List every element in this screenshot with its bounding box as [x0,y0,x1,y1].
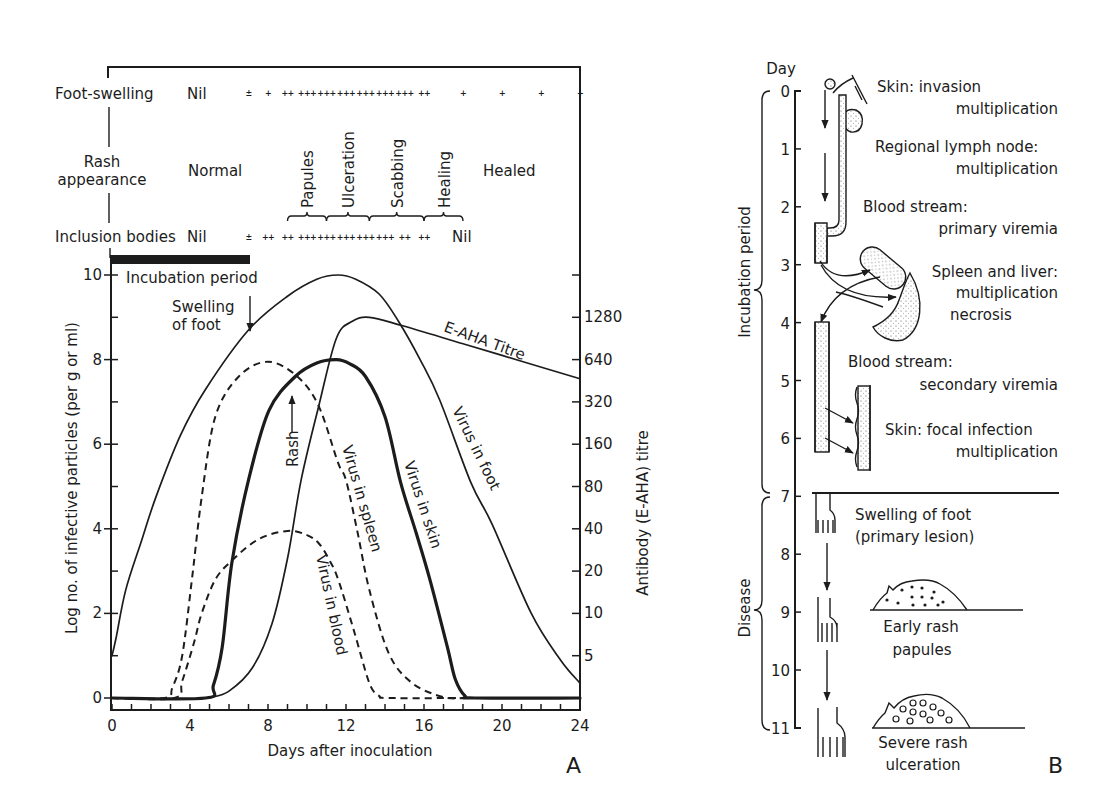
stage-spleen-liver-2: multiplication [956,284,1058,302]
y2-tick-label: 20 [584,562,603,580]
panel-b: Day 01234567891011 Incubation period Dis… [736,60,1063,778]
score-symbol: +++ [376,233,394,242]
rash-stages: PapulesUlcerationScabbingHealing [288,131,464,221]
x-axis-title: Days after inoculation [267,742,432,760]
y-tick-label: 4 [92,520,102,538]
rash-appearance-label-1: Rash [84,153,121,171]
stage-spleen-liver-3: necrosis [950,306,1012,324]
day-tick-label: 10 [771,662,790,680]
y2-tick-label: 10 [584,604,603,622]
score-symbol: + [538,89,544,98]
stage-early-rash-1: Early rash [883,618,958,636]
y2-tick-label: 5 [584,647,594,665]
foot-swelling-scores: ±+++++++++++++++++++++++++++ [245,89,583,98]
inclusion-bodies-nil-before: Nil [187,228,207,246]
rash-normal: Normal [188,162,242,180]
y2-tick-label: 160 [584,435,613,453]
stage-brace [288,212,327,221]
blood-vessel-stipple [815,223,827,263]
foot-icon [818,597,837,642]
severe-rash-drawing [872,694,1025,728]
stage-primary-viremia-2: primary viremia [938,220,1058,238]
score-symbol: +++ [356,233,374,242]
stage-severe-rash-2: ulceration [885,756,960,774]
score-symbol: +++ [356,89,374,98]
y2-tick-label: 640 [584,351,613,369]
foot-swelling-label: Foot-swelling [55,85,154,103]
score-symbol: ++ [262,233,274,242]
skin-invasion-drawing [815,75,867,263]
incubation-period-label: Incubation period [126,269,258,287]
score-symbol: +++ [298,89,316,98]
foot-icon [818,707,845,757]
rash-healed: Healed [483,162,536,180]
rash-stage-label: Papules [299,150,317,208]
spleen-curve-label: Virus in spleen [338,443,386,554]
score-symbol: +++ [395,89,413,98]
foot-swelling-nil: Nil [187,85,207,103]
score-symbol: + [460,89,466,98]
inoculum-stipple [825,79,835,89]
y-tick-label: 6 [92,435,102,453]
papule-mound-icon [873,580,967,610]
day-tick-label: 6 [780,430,790,448]
stage-secondary-viremia-1: Blood stream: [848,353,953,371]
panel-a-letter: A [566,753,581,778]
incubation-period-phase-label: Incubation period [736,206,754,338]
x-tick-label: 20 [492,717,511,735]
day-tick-label: 8 [780,546,790,564]
panel-b-letter: B [1048,753,1063,778]
y-tick-label: 8 [92,351,102,369]
figure: Foot-swelling Nil ±+++++++++++++++++++++… [0,0,1111,808]
incubation-period-bar [110,255,250,264]
foot-drawings [816,494,845,757]
stage-early-rash-2: papules [893,641,952,659]
score-symbol: + [265,89,271,98]
stage-severe-rash-1: Severe rash [878,734,967,752]
day-axis [795,91,801,728]
rash-stage-label: Healing [436,151,454,208]
rash-appearance-label-2: appearance [58,171,147,189]
day-tick-label: 11 [771,720,790,738]
score-symbol: ++ [418,89,430,98]
stage-foot-swelling-1: Swelling of foot [855,506,971,524]
arrow-to-bloodstream-icon [821,277,880,322]
blood-curve-label: Virus in blood [312,553,351,657]
day-axis-ticks: 01234567891011 [771,83,801,738]
x-tick-label: 4 [185,717,195,735]
curve-foot [112,275,580,683]
secondary-viremia-drawing [815,322,870,471]
stage-skin-invasion-2: multiplication [956,100,1058,118]
stage-primary-viremia-1: Blood stream: [863,198,968,216]
y2-tick-label: 320 [584,393,613,411]
swelling-label-2: of foot [172,316,221,334]
y-tick-label: 10 [83,266,102,284]
day-tick-label: 5 [780,373,790,391]
score-symbol: + [577,89,583,98]
score-symbol: ++ [398,233,410,242]
y2-tick-label: 1280 [584,308,622,326]
day-tick-label: 2 [780,199,790,217]
spleen-icon [855,242,910,294]
stage-brace [424,212,463,221]
lymph-node-icon [845,109,862,132]
x-tick-label: 24 [570,717,589,735]
x-tick-label: 8 [263,717,273,735]
panel-a: Foot-swelling Nil ±+++++++++++++++++++++… [55,67,652,778]
inclusion-bodies-label: Inclusion bodies [55,228,176,246]
disease-brace [754,497,770,730]
x-tick-label: 0 [107,717,117,735]
stage-brace [369,212,424,221]
blood-vessel-stipple [815,322,829,452]
score-symbol: +++ [298,233,316,242]
rash-stage-label: Ulceration [340,131,358,208]
score-symbol: ± [245,233,251,242]
skin-surface-icon [852,75,867,104]
stage-lymph-node-1: Regional lymph node: [875,138,1038,156]
score-symbol: ± [245,89,251,98]
foot-curve-label: Virus in foot [448,404,504,493]
stage-foot-swelling-2: (primary lesion) [855,528,974,546]
inclusion-bodies-nil-after: Nil [452,228,472,246]
swelling-label-1: Swelling [172,298,235,316]
y2-axis-title: Antibody (E-AHA) titre [634,430,652,596]
